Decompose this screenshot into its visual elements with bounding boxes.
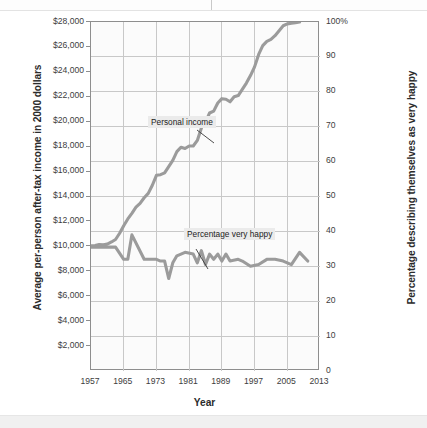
- y-tick-left-8: $18,000: [28, 140, 84, 150]
- top-divider: [0, 10, 427, 11]
- y-tick-left-1: $4,000: [28, 315, 84, 325]
- y-tick-right-3: 30: [326, 260, 366, 270]
- y-tick-left-12: $26,000: [28, 40, 84, 50]
- plot-area: [90, 21, 319, 370]
- y-tick-left-13: $28,000: [28, 16, 84, 26]
- bottom-band: [0, 416, 427, 428]
- x-tick-7: 2013: [299, 376, 339, 386]
- y-axis-right-title: Percentage describing themselves as very…: [406, 23, 417, 353]
- top-notch-mark: [211, 0, 212, 10]
- x-axis-title: Year: [90, 397, 319, 408]
- y-tick-left-2: $6,000: [28, 290, 84, 300]
- y-tick-left-9: $20,000: [28, 115, 84, 125]
- chart-figure: Average per-person after-tax income in 2…: [0, 0, 427, 428]
- top-band: [0, 0, 427, 10]
- y-tick-left-4: $10,000: [28, 240, 84, 250]
- y-tick-left-11: $24,000: [28, 65, 84, 75]
- y-tick-left-10: $22,000: [28, 90, 84, 100]
- y-tick-left-0: $2,000: [28, 340, 84, 350]
- y-tick-right-7: 70: [326, 120, 366, 130]
- y-tick-right-5: 50: [326, 190, 366, 200]
- y-tick-right-2: 20: [326, 295, 366, 305]
- annotation-leaders: [196, 130, 214, 269]
- y-tick-left-5: $12,000: [28, 215, 84, 225]
- annotation-label-2: Percentage very happy: [184, 228, 275, 240]
- gridlines: [91, 22, 320, 371]
- y-tick-right-1: 10: [326, 330, 366, 340]
- y-tick-right-0: 0: [326, 365, 366, 375]
- series-line-1: [91, 22, 300, 246]
- y-tick-right-4: 40: [326, 225, 366, 235]
- y-tick-left-3: $8,000: [28, 265, 84, 275]
- y-tick-right-9: 90: [326, 50, 366, 60]
- y-tick-right-8: 80: [326, 85, 366, 95]
- y-tick-left-7: $16,000: [28, 165, 84, 175]
- chart-canvas: [91, 22, 320, 371]
- y-tick-right-10: 100%: [326, 16, 366, 26]
- y-tick-right-6: 60: [326, 155, 366, 165]
- y-tick-left-6: $14,000: [28, 190, 84, 200]
- annotation-label-1: Personal income: [148, 116, 216, 128]
